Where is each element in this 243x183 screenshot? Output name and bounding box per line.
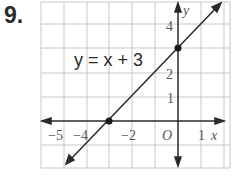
x-tick-1: 1 (198, 128, 205, 143)
coordinate-graph: y = x + 3 y x O −5 −4 −2 1 4 2 1 (0, 0, 243, 183)
equation-label: y = x + 3 (74, 50, 143, 70)
y-tick-1: 1 (167, 91, 174, 106)
point-x-intercept (106, 118, 113, 125)
grid (41, 2, 230, 168)
y-tick-4: 4 (166, 19, 173, 34)
y-tick-2: 2 (166, 67, 173, 82)
point-y-intercept (175, 45, 182, 52)
x-tick-minus5: −5 (48, 128, 63, 143)
x-axis-label: x (210, 128, 218, 143)
x-axis (42, 118, 224, 124)
x-tick-minus4: −4 (73, 128, 88, 143)
y-axis (175, 3, 181, 166)
origin-label: O (162, 128, 172, 143)
x-tick-minus2: −2 (121, 128, 136, 143)
y-axis-label: y (181, 3, 190, 18)
